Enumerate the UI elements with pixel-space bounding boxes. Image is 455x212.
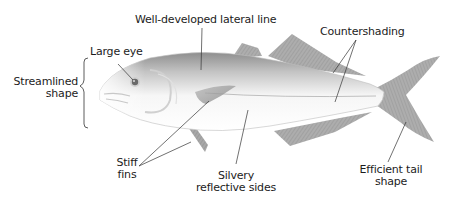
tail-fin bbox=[376, 56, 440, 142]
label-efficient-tail: Efficient tail shape bbox=[350, 164, 432, 188]
label-silvery-sides: Silvery reflective sides bbox=[190, 170, 282, 194]
pelvic-fin bbox=[188, 127, 208, 152]
label-countershading: Countershading bbox=[320, 26, 405, 38]
streamlined-bracket bbox=[80, 58, 88, 128]
label-stiff-fins: Stiff fins bbox=[112, 157, 142, 181]
label-streamlined: Streamlined shape bbox=[6, 76, 78, 100]
fish-adaptations-diagram: Well-developed lateral line Countershadi… bbox=[0, 0, 455, 212]
label-lateral-line: Well-developed lateral line bbox=[135, 14, 276, 26]
label-large-eye: Large eye bbox=[90, 46, 143, 58]
